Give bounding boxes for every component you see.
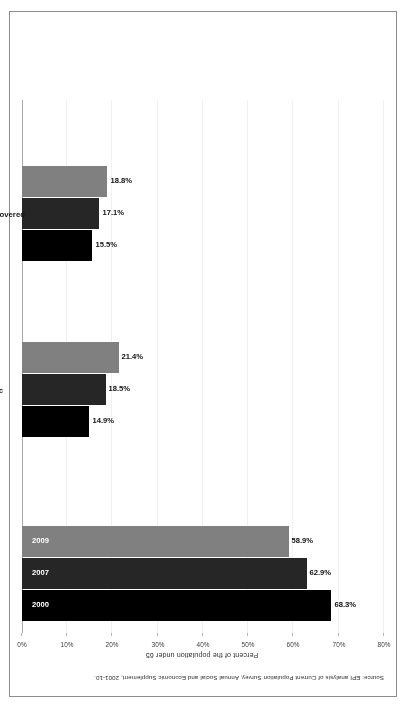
bar-esi-2000 xyxy=(22,590,331,621)
axis-tick-mark xyxy=(202,633,203,636)
bar-series-label: 2007 xyxy=(32,569,49,578)
bar-series-label: 2000 xyxy=(32,601,49,610)
axis-tick-label: 80% xyxy=(378,641,391,648)
axis-tick-label: 30% xyxy=(151,641,164,648)
rotated-chart-container: Source: EPI analysis of Current Populati… xyxy=(10,12,396,696)
bar-esi-2007 xyxy=(22,558,307,589)
bar-row: 15.5% xyxy=(22,230,384,261)
source-note: Source: EPI analysis of Current Populati… xyxy=(24,674,384,682)
axis-tick-mark xyxy=(338,633,339,636)
axis-tick-mark xyxy=(247,633,248,636)
bar-value-label: 15.5% xyxy=(95,241,117,250)
bar-value-label: 58.9% xyxy=(292,537,314,546)
axis-tick-label: 10% xyxy=(61,641,74,648)
axis-tick-label: 50% xyxy=(242,641,255,648)
bar-not-covered-2007 xyxy=(22,198,99,229)
axis-tick-mark xyxy=(157,633,158,636)
bar-value-label: 62.9% xyxy=(310,569,332,578)
bar-not-covered-2000 xyxy=(22,230,92,261)
axis-tick-label: 60% xyxy=(287,641,300,648)
bar-esi-2009 xyxy=(22,526,289,557)
bar-value-label: 21.4% xyxy=(122,353,144,362)
axis-tick-mark xyxy=(293,633,294,636)
bar-value-label: 68.3% xyxy=(334,601,356,610)
category-label-not-covered: Not covered xyxy=(0,211,25,220)
category-label-public: Public xyxy=(0,387,3,396)
bar-public-2000 xyxy=(22,406,89,437)
axis-tick-label: 20% xyxy=(106,641,119,648)
axis-tick-mark xyxy=(383,633,384,636)
bar-row: 68.3%2000 xyxy=(22,590,384,621)
axis-tick-mark xyxy=(66,633,67,636)
bar-public-2009 xyxy=(22,342,119,373)
bar-value-label: 18.8% xyxy=(110,177,132,186)
bar-public-2007 xyxy=(22,374,106,405)
bar-row: 18.8% xyxy=(22,166,384,197)
bar-value-label: 18.5% xyxy=(109,385,131,394)
bar-row: 18.5% xyxy=(22,374,384,405)
chart-area: Source: EPI analysis of Current Populati… xyxy=(10,12,396,696)
bar-not-covered-2009 xyxy=(22,166,107,197)
axis-tick-label: 0% xyxy=(17,641,26,648)
axis-tick-mark xyxy=(112,633,113,636)
scanned-page: Source: EPI analysis of Current Populati… xyxy=(0,0,408,708)
axis-tick-label: 70% xyxy=(332,641,345,648)
axis-tick-mark xyxy=(21,633,22,636)
bar-row: 58.9%2009 xyxy=(22,526,384,557)
plot-region: 68.3%200062.9%200758.9%2009ESI14.9%18.5%… xyxy=(22,100,384,633)
y-axis-title: Percent of the population under 65 xyxy=(52,651,352,660)
bar-series-label: 2009 xyxy=(32,537,49,546)
bar-row: 14.9% xyxy=(22,406,384,437)
bar-row: 21.4% xyxy=(22,342,384,373)
axis-tick-labels: 0%10%20%30%40%50%60%70%80% xyxy=(22,636,384,648)
bar-row: 62.9%2007 xyxy=(22,558,384,589)
bar-value-label: 17.1% xyxy=(102,209,124,218)
bar-row: 17.1% xyxy=(22,198,384,229)
axis-tick-label: 40% xyxy=(197,641,210,648)
bar-value-label: 14.9% xyxy=(92,417,114,426)
